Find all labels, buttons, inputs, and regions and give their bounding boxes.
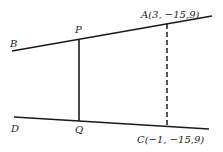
line-BA xyxy=(12,16,212,51)
label-D: D xyxy=(10,123,19,134)
label-Q: Q xyxy=(75,124,83,135)
label-A: A(3, −15,9) xyxy=(140,9,199,20)
label-P: P xyxy=(74,24,82,35)
geometry-diagram: A(3, −15,9) B P D Q C(−1, −15,9) xyxy=(0,0,223,152)
label-C: C(−1, −15,9) xyxy=(137,134,204,145)
label-B: B xyxy=(9,38,17,49)
line-DC xyxy=(14,117,209,129)
